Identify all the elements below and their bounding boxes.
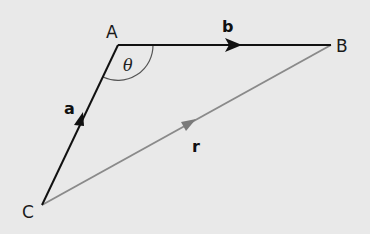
vector-r-arrowhead bbox=[181, 119, 196, 131]
point-label-c: C bbox=[22, 202, 34, 222]
point-label-b: B bbox=[336, 36, 348, 56]
vector-label-r: r bbox=[192, 137, 200, 156]
angle-label-theta: θ bbox=[123, 56, 133, 75]
vector-a-arrowhead bbox=[74, 112, 84, 126]
vector-diagram: A B C a b r θ bbox=[0, 0, 370, 234]
point-label-a: A bbox=[106, 22, 118, 42]
vector-label-a: a bbox=[64, 99, 75, 118]
vector-label-b: b bbox=[222, 17, 233, 36]
diagram-canvas: A B C a b r θ bbox=[0, 0, 370, 234]
